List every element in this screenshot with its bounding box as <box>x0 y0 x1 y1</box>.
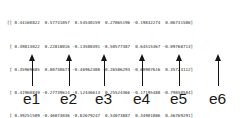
up-arrow-icon-e2 <box>65 54 74 86</box>
up-arrow-icon-e4 <box>138 54 147 86</box>
matrix-row: [ 0.49813022 0.22818016 -0.13500491 -0.5… <box>7 43 241 51</box>
arrow-shaft <box>142 60 144 86</box>
arrow-shaft <box>218 60 220 86</box>
matrix-output: [[ 0.44160822 0.57741057 0.54540159 0.27… <box>7 4 241 118</box>
matrix-row: [[ 0.44160822 0.57741057 0.54540159 0.27… <box>7 19 241 27</box>
matrix-row: [ 0.41960849 -0.27739614 -0.12446613 0.2… <box>7 89 241 97</box>
arrow-shaft <box>179 60 181 86</box>
up-arrow-icon-e5 <box>175 54 184 86</box>
column-label-e6: e6 <box>209 90 226 108</box>
matrix-row: [ 0.45969685 0.00730671 -0.46962308 -0.2… <box>7 66 241 74</box>
column-label-e2: e2 <box>60 90 77 108</box>
column-label-e5: e5 <box>170 90 187 108</box>
column-label-e1: e1 <box>23 90 40 108</box>
up-arrow-icon-e1 <box>28 54 37 86</box>
column-label-e3: e3 <box>95 90 112 108</box>
up-arrow-icon-e3 <box>100 54 109 86</box>
column-label-e4: e4 <box>133 90 150 108</box>
matrix-row: [ 0.39251589 -0.46074036 -0.02679247 0.5… <box>7 112 241 118</box>
figure-root: [[ 0.44160822 0.57741057 0.54540159 0.27… <box>0 0 246 118</box>
arrow-shaft <box>104 60 106 86</box>
up-arrow-icon-e6 <box>214 54 223 86</box>
arrow-shaft <box>32 60 34 86</box>
arrow-shaft <box>69 60 71 86</box>
